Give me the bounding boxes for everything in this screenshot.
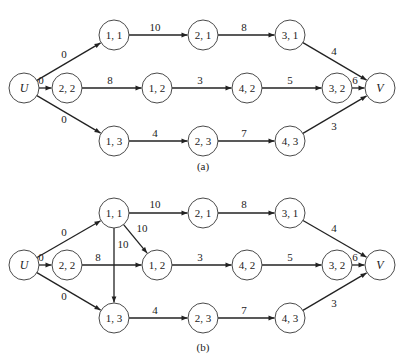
edge-weight-label: 6: [352, 251, 358, 263]
edge-weight-label: 8: [107, 74, 113, 86]
node-label: 1, 2: [149, 82, 166, 94]
panel-caption: (b): [197, 341, 210, 354]
edge-weight-label: 0: [61, 113, 67, 125]
node-label: 3, 2: [329, 259, 346, 271]
node-label: 1, 1: [106, 207, 123, 219]
node-32: 3, 2: [322, 250, 352, 280]
node-23: 2, 3: [188, 126, 218, 156]
node-label: 1, 2: [149, 259, 166, 271]
node-label: 4, 3: [282, 135, 299, 147]
node-label: 2, 2: [59, 82, 76, 94]
edge-weight-label: 0: [38, 251, 44, 263]
edge-weight-label: 4: [331, 45, 337, 57]
edge-weight-label: 0: [61, 290, 67, 302]
node-label: 1, 3: [106, 312, 123, 324]
node-label: 3, 2: [329, 82, 346, 94]
edge-weight-label: 3: [331, 297, 337, 309]
edge-weight-label: 7: [241, 304, 247, 316]
node-22: 2, 2: [52, 73, 82, 103]
node-label: 4, 2: [239, 82, 256, 94]
node-label: 3, 1: [282, 29, 299, 41]
node-label: 3, 1: [282, 207, 299, 219]
edge-weight-label: 10: [150, 198, 162, 210]
edge-weight-label: 10: [137, 222, 149, 234]
edge-weight-label: 0: [61, 226, 67, 238]
edge-weight-label: 0: [38, 74, 44, 86]
edge-weight-label: 4: [331, 222, 337, 234]
edge-weight-label: 3: [331, 120, 337, 132]
node-label: 1, 3: [106, 135, 123, 147]
node-U: U: [9, 250, 39, 280]
node-32: 3, 2: [322, 73, 352, 103]
edge-weight-label: 4: [152, 304, 158, 316]
node-label: 2, 1: [195, 29, 212, 41]
node-31: 3, 1: [275, 20, 305, 50]
node-43: 4, 3: [275, 126, 305, 156]
panel-caption: (a): [197, 160, 210, 173]
node-12: 1, 2: [142, 250, 172, 280]
node-13: 1, 3: [99, 303, 129, 333]
panel-b: 000101010848374563U1, 12, 21, 32, 11, 22…: [9, 198, 395, 354]
edge-weight-label: 0: [61, 48, 67, 60]
edge-weight-label: 10: [150, 21, 162, 33]
node-V: V: [365, 250, 395, 280]
edge-weight-label: 4: [152, 127, 158, 139]
node-label: U: [20, 81, 30, 95]
node-42: 4, 2: [232, 73, 262, 103]
node-label: 2, 3: [195, 312, 212, 324]
node-label: 2, 2: [59, 259, 76, 271]
node-label: 2, 3: [195, 135, 212, 147]
node-21: 2, 1: [188, 20, 218, 50]
node-U: U: [9, 73, 39, 103]
node-V: V: [365, 73, 395, 103]
node-label: 2, 1: [195, 207, 212, 219]
edge-weight-label: 3: [197, 74, 203, 86]
node-label: 1, 1: [106, 29, 123, 41]
node-13: 1, 3: [99, 126, 129, 156]
edge-weight-label: 8: [95, 251, 101, 263]
edge-weight-label: 5: [287, 251, 293, 263]
panel-a: 00010848374563U1, 12, 21, 32, 11, 22, 33…: [9, 20, 395, 173]
node-43: 4, 3: [275, 303, 305, 333]
edge-weight-label: 8: [241, 21, 247, 33]
node-label: 4, 2: [239, 259, 256, 271]
node-label: 4, 3: [282, 312, 299, 324]
node-21: 2, 1: [188, 198, 218, 228]
diagram-canvas: 00010848374563U1, 12, 21, 32, 11, 22, 33…: [0, 0, 408, 364]
edge-weight-label: 7: [241, 127, 247, 139]
node-31: 3, 1: [275, 198, 305, 228]
edge-weight-label: 3: [197, 251, 203, 263]
edge-weight-label: 10: [118, 238, 130, 250]
edge-weight-label: 5: [287, 74, 293, 86]
edge-weight-label: 6: [352, 74, 358, 86]
node-11: 1, 1: [99, 198, 129, 228]
edge-weight-label: 8: [241, 198, 247, 210]
node-label: U: [20, 258, 30, 272]
node-42: 4, 2: [232, 250, 262, 280]
node-23: 2, 3: [188, 303, 218, 333]
network-diagram: 00010848374563U1, 12, 21, 32, 11, 22, 33…: [0, 0, 408, 364]
node-22: 2, 2: [52, 250, 82, 280]
node-11: 1, 1: [99, 20, 129, 50]
node-12: 1, 2: [142, 73, 172, 103]
